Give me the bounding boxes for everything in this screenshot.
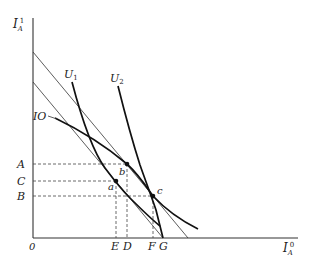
tick-B: B: [16, 190, 25, 203]
IO-label: IO: [32, 110, 46, 123]
point-c: [151, 194, 156, 199]
indifference-diagram: IA1 IA0 0 A C B E D F G U1 U2 IO a b c: [0, 0, 309, 267]
tick-D: D: [122, 240, 132, 253]
origin-label: 0: [29, 241, 36, 252]
label-a: a: [108, 181, 114, 192]
y-axis-label: IA1: [12, 17, 24, 33]
point-a: [114, 179, 119, 184]
tick-A: A: [16, 158, 25, 171]
U2-label: U2: [110, 72, 124, 86]
diagram: IA1 IA0 0 A C B E D F G U1 U2 IO a b c: [0, 0, 309, 267]
U1-label: U1: [64, 68, 78, 82]
x-axis-label: IA0: [282, 241, 294, 257]
label-b: b: [119, 166, 125, 177]
tick-F: F: [147, 240, 156, 253]
label-c: c: [157, 185, 163, 196]
tick-C: C: [17, 175, 26, 188]
tick-E: E: [110, 240, 119, 253]
lower-budget-line: [33, 82, 163, 238]
U1-curve: [72, 82, 160, 226]
tick-G: G: [159, 240, 168, 253]
